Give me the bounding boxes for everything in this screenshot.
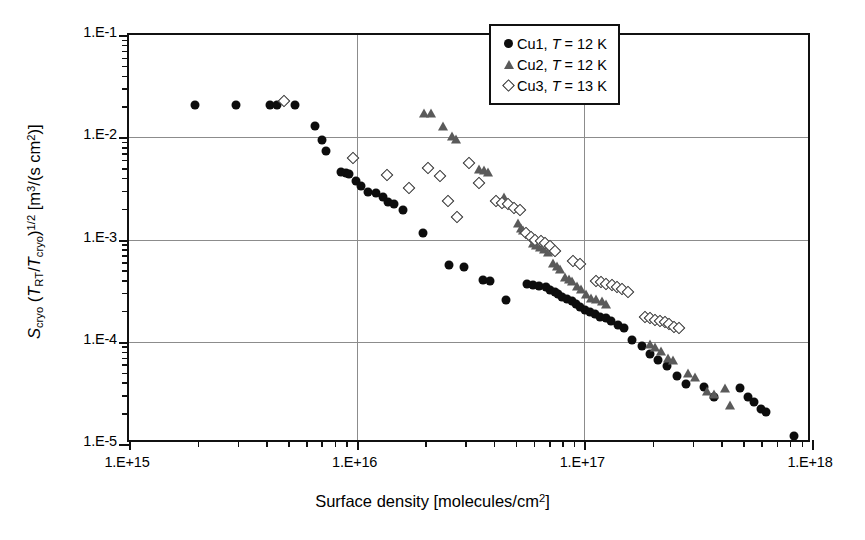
y-tick-minor bbox=[122, 40, 129, 42]
filled-circle-icon bbox=[500, 39, 517, 48]
x-tick-minor bbox=[494, 440, 496, 447]
x-tick-minor bbox=[562, 440, 564, 447]
y-tick-minor bbox=[122, 358, 129, 360]
y-tick-minor bbox=[122, 147, 129, 149]
data-point-cu1 bbox=[790, 431, 799, 440]
x-tick-major bbox=[812, 440, 814, 450]
x-tick-minor bbox=[534, 440, 536, 447]
data-point-cu3 bbox=[421, 162, 434, 175]
y-tick-minor bbox=[122, 244, 129, 246]
x-tick-minor bbox=[266, 440, 268, 447]
y-tick-minor bbox=[122, 51, 129, 53]
x-tick-minor bbox=[346, 440, 348, 447]
y-tick-minor bbox=[122, 66, 129, 68]
x-tick-minor bbox=[743, 440, 745, 447]
y-tick-minor bbox=[122, 178, 129, 180]
data-point-cu2 bbox=[451, 135, 461, 144]
data-point-cu2 bbox=[483, 167, 493, 176]
data-point-cu1 bbox=[231, 101, 240, 110]
data-point-cu1 bbox=[502, 296, 511, 305]
data-point-cu1 bbox=[445, 261, 454, 270]
x-tick-minor bbox=[306, 440, 308, 447]
data-point-cu1 bbox=[310, 121, 319, 130]
data-point-cu2 bbox=[426, 109, 436, 118]
y-tick-minor bbox=[122, 191, 129, 193]
legend-label: Cu2, T = 12 K bbox=[517, 57, 607, 73]
x-tick-minor bbox=[465, 440, 467, 447]
legend-row: Cu3, T = 13 K bbox=[500, 75, 607, 96]
y-tick-major bbox=[119, 240, 129, 242]
x-tick-minor bbox=[549, 440, 551, 447]
y-tick-minor bbox=[122, 270, 129, 272]
y-tick-minor bbox=[122, 346, 129, 348]
y-tick-minor bbox=[122, 280, 129, 282]
x-tick-label: 1.E+17 bbox=[537, 454, 627, 470]
data-point-cu3 bbox=[462, 157, 475, 170]
plot-frame bbox=[127, 33, 810, 442]
data-point-cu1 bbox=[191, 101, 200, 110]
y-tick-major bbox=[119, 342, 129, 344]
data-point-cu1 bbox=[390, 200, 399, 209]
gridline-horizontal bbox=[129, 137, 808, 138]
x-tick-minor bbox=[516, 440, 518, 447]
legend-row: Cu2, T = 12 K bbox=[500, 54, 607, 75]
x-tick-minor bbox=[761, 440, 763, 447]
data-point-cu3 bbox=[442, 194, 455, 207]
y-tick-minor bbox=[122, 45, 129, 47]
data-point-cu2 bbox=[690, 373, 700, 382]
y-tick-minor bbox=[122, 293, 129, 295]
x-tick-minor bbox=[238, 440, 240, 447]
x-tick-minor bbox=[321, 440, 323, 447]
x-tick-label: 1.E+15 bbox=[82, 454, 172, 470]
y-tick-label: 1.E-5 bbox=[55, 433, 117, 449]
open-diamond-icon bbox=[500, 81, 517, 90]
y-tick-minor bbox=[122, 58, 129, 60]
data-point-cu1 bbox=[290, 101, 299, 110]
y-tick-minor bbox=[122, 168, 129, 170]
data-point-cu1 bbox=[762, 408, 771, 417]
data-point-cu2 bbox=[668, 356, 678, 365]
x-tick-major bbox=[357, 440, 359, 450]
y-tick-minor bbox=[122, 255, 129, 257]
x-tick-minor bbox=[288, 440, 290, 447]
data-point-cu3 bbox=[473, 176, 486, 189]
y-tick-minor bbox=[122, 262, 129, 264]
y-tick-minor bbox=[122, 311, 129, 313]
gridline-horizontal bbox=[129, 240, 808, 241]
filled-triangle-icon bbox=[500, 60, 517, 69]
data-point-cu3 bbox=[403, 181, 416, 194]
y-tick-label: 1.E-2 bbox=[55, 126, 117, 142]
y-tick-minor bbox=[122, 352, 129, 354]
data-point-cu1 bbox=[459, 262, 468, 271]
y-tick-minor bbox=[122, 413, 129, 415]
data-point-cu3 bbox=[434, 169, 447, 182]
data-point-cu3 bbox=[381, 168, 394, 181]
x-tick-major bbox=[584, 440, 586, 450]
y-tick-minor bbox=[122, 142, 129, 144]
x-tick-minor bbox=[574, 440, 576, 447]
data-point-cu3 bbox=[450, 211, 463, 224]
x-axis-title: Surface density [molecules/cm2] bbox=[0, 492, 865, 511]
data-point-cu1 bbox=[322, 146, 331, 155]
data-point-cu1 bbox=[620, 324, 629, 333]
data-point-cu2 bbox=[438, 121, 448, 130]
gridline-vertical bbox=[357, 35, 358, 440]
data-point-cu1 bbox=[672, 372, 681, 381]
y-tick-major bbox=[119, 137, 129, 139]
y-tick-minor bbox=[122, 106, 129, 108]
data-point-cu2 bbox=[601, 299, 611, 308]
x-tick-minor bbox=[693, 440, 695, 447]
plot-area bbox=[129, 35, 808, 440]
data-point-cu2 bbox=[725, 401, 735, 410]
y-tick-minor bbox=[122, 160, 129, 162]
y-tick-minor bbox=[122, 209, 129, 211]
chart-legend: Cu1, T = 12 KCu2, T = 12 KCu3, T = 13 K bbox=[489, 24, 620, 105]
legend-label: Cu1, T = 12 K bbox=[517, 36, 607, 52]
x-tick-label: 1.E+16 bbox=[310, 454, 400, 470]
y-tick-minor bbox=[122, 373, 129, 375]
x-tick-minor bbox=[721, 440, 723, 447]
gridline-horizontal bbox=[129, 342, 808, 343]
y-tick-minor bbox=[122, 249, 129, 251]
data-point-cu1 bbox=[418, 229, 427, 238]
x-tick-minor bbox=[653, 440, 655, 447]
